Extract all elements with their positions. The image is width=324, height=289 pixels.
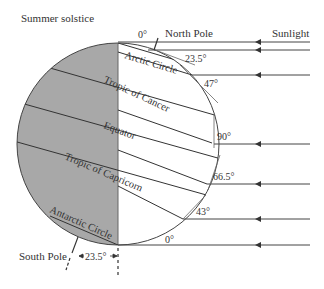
angle-arctic: 23.5° [185, 53, 207, 64]
angle-cancer: 47° [204, 78, 218, 89]
solstice-diagram: Summer solstice North Pole Sunlight Sout… [0, 0, 324, 289]
north-pole-label: North Pole [165, 27, 213, 39]
angle-equator: 90° [217, 131, 231, 142]
south-pole-label: South Pole [19, 250, 67, 262]
label-arctic-circle: Arctic Circle [123, 49, 179, 76]
angle-capricorn: 66.5° [213, 171, 235, 182]
angle-antarctic: 43° [196, 206, 210, 217]
diagram-title: Summer solstice [21, 12, 94, 24]
angle-top: 0° [138, 29, 147, 40]
angle-bottom: 0° [165, 234, 174, 245]
angle-tilt: 23.5° [85, 251, 107, 262]
sunlight-label: Sunlight [272, 27, 309, 39]
capricorn-lower-day [118, 186, 183, 219]
